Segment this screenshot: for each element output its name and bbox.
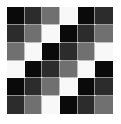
pattern-cell — [42, 7, 60, 25]
pattern-cell — [78, 7, 96, 25]
pattern-cell — [60, 25, 78, 43]
pattern-cell — [95, 7, 113, 25]
pattern-cell — [42, 25, 60, 43]
pattern-cell — [42, 96, 60, 114]
pattern-cell — [42, 78, 60, 96]
pattern-cell — [7, 61, 25, 79]
pattern-cell — [42, 43, 60, 61]
pattern-cell — [78, 78, 96, 96]
pattern-cell — [25, 25, 43, 43]
pattern-cell — [7, 25, 25, 43]
pattern-cell — [95, 96, 113, 114]
pattern-cell — [25, 96, 43, 114]
pattern-cell — [95, 61, 113, 79]
pattern-cell — [25, 7, 43, 25]
pattern-cell — [7, 78, 25, 96]
pattern-cell — [95, 43, 113, 61]
pattern-cell — [60, 7, 78, 25]
pattern-cell — [7, 43, 25, 61]
pattern-cell — [78, 25, 96, 43]
pattern-grid — [7, 7, 113, 114]
pattern-cell — [78, 96, 96, 114]
pattern-cell — [60, 78, 78, 96]
pattern-cell — [7, 96, 25, 114]
pattern-cell — [60, 96, 78, 114]
pattern-cell — [95, 25, 113, 43]
pattern-cell — [78, 43, 96, 61]
pattern-cell — [25, 43, 43, 61]
pattern-cell — [78, 61, 96, 79]
pattern-figure — [0, 0, 121, 124]
pattern-cell — [25, 61, 43, 79]
pattern-cell — [25, 78, 43, 96]
pattern-cell — [95, 78, 113, 96]
pattern-cell — [42, 61, 60, 79]
pattern-cell — [7, 7, 25, 25]
pattern-cell — [60, 43, 78, 61]
pattern-cell — [60, 61, 78, 79]
